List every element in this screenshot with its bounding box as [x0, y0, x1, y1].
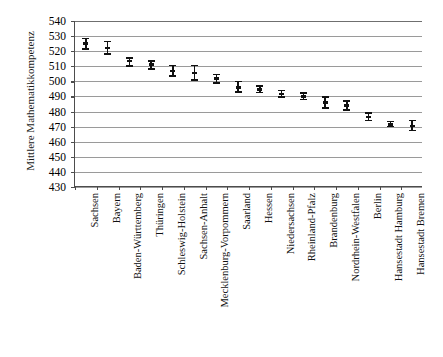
x-axis-category-label: Nordrhein-Westfalen — [350, 193, 361, 281]
x-axis-category-label: Hansestadt Bremen — [415, 193, 426, 275]
x-axis-category-label: Rheinland-Pfalz — [306, 193, 317, 261]
x-axis-category-label: Sachsen-Anhalt — [198, 193, 209, 259]
x-axis-category-label: Baden-Württemberg — [132, 193, 143, 279]
x-axis-category-label: Bayern — [111, 193, 122, 223]
chart-figure: Mittlere Mathematikkompetenz 54053052051… — [0, 0, 443, 357]
x-axis-category-label: Mecklenburg-Vorpommern — [219, 193, 230, 308]
x-axis-category-label: Berlin — [372, 193, 383, 219]
x-axis-category-label: Hansestadt Hamburg — [393, 193, 404, 281]
x-axis-category-label: Brandenburg — [328, 193, 339, 248]
x-axis-category-label: Schleswig-Holstein — [176, 193, 187, 275]
x-axis-category-label: Sachsen — [89, 193, 100, 227]
x-axis-category-label: Saarland — [241, 193, 252, 230]
x-axis-category-label: Hessen — [263, 193, 274, 223]
x-axis-category-labels: SachsenBayernBaden-WürttembergThüringenS… — [0, 0, 443, 357]
x-axis-category-label: Thüringen — [154, 193, 165, 237]
x-axis-category-label: Niedersachsen — [285, 193, 296, 254]
